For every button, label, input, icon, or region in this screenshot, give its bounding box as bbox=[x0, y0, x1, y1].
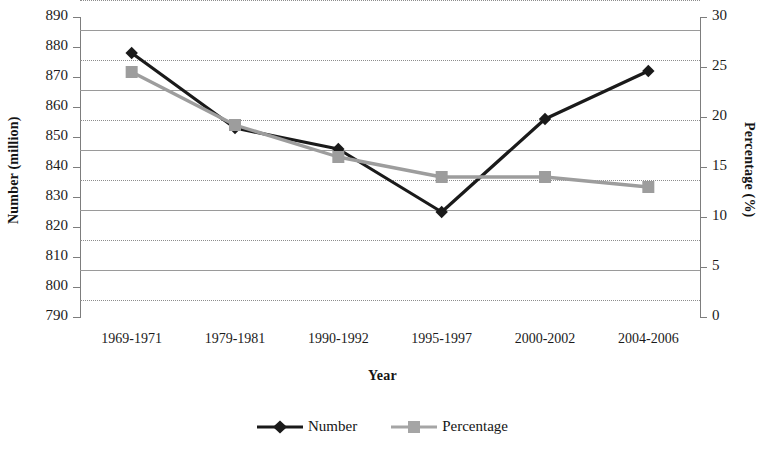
y-axis-right-tick bbox=[700, 17, 707, 18]
y-axis-right-ticklabel: 30 bbox=[712, 8, 742, 23]
y-axis-left-tick bbox=[73, 17, 80, 18]
y-axis-left-tick bbox=[73, 77, 80, 78]
chart-legend: Number Percentage bbox=[0, 418, 765, 435]
y-axis-left-tick bbox=[73, 167, 80, 168]
y-axis-left-ticklabel: 800 bbox=[8, 278, 68, 293]
y-axis-right-ticklabel: 0 bbox=[712, 308, 742, 323]
x-axis-ticklabel: 2004-2006 bbox=[593, 331, 703, 347]
y-axis-right-ticklabel: 5 bbox=[712, 258, 742, 273]
y-axis-left-ticklabel: 820 bbox=[8, 218, 68, 233]
y-axis-left-ticklabel: 810 bbox=[8, 248, 68, 263]
gridline bbox=[80, 210, 700, 211]
y-axis-left-ticklabel: 860 bbox=[8, 98, 68, 113]
y-axis-right-ticklabel: 15 bbox=[712, 158, 742, 173]
data-point-square bbox=[539, 171, 551, 183]
y-axis-left-ticklabel: 840 bbox=[8, 158, 68, 173]
y-axis-left-ticklabel: 870 bbox=[8, 68, 68, 83]
gridline bbox=[80, 0, 700, 1]
x-axis-ticklabel: 1969-1971 bbox=[77, 331, 187, 347]
legend-marker-square-icon bbox=[391, 420, 437, 434]
y-axis-right-ticklabel: 20 bbox=[712, 108, 742, 123]
data-point-square bbox=[332, 151, 344, 163]
y-axis-left-ticklabel: 790 bbox=[8, 308, 68, 323]
y-axis-left-tick bbox=[73, 317, 80, 318]
y-axis-left-ticklabel: 890 bbox=[8, 8, 68, 23]
y-axis-right-ticklabel: 10 bbox=[712, 208, 742, 223]
series-line bbox=[132, 53, 649, 212]
legend-item-percentage: Percentage bbox=[391, 418, 508, 435]
y-axis-left-tick bbox=[73, 137, 80, 138]
y-axis-right-tick bbox=[700, 67, 707, 68]
legend-marker-diamond-icon bbox=[257, 420, 303, 434]
y-axis-right-ticklabel: 25 bbox=[712, 58, 742, 73]
y-axis-left-tick bbox=[73, 47, 80, 48]
y-axis-left-tick bbox=[73, 197, 80, 198]
y-axis-left-tick bbox=[73, 257, 80, 258]
gridline bbox=[80, 240, 700, 241]
x-axis-ticklabel: 1990-1992 bbox=[283, 331, 393, 347]
legend-label-number: Number bbox=[308, 418, 357, 435]
series-percentage bbox=[126, 66, 655, 193]
gridline bbox=[80, 180, 700, 181]
gridline bbox=[80, 90, 700, 91]
y-axis-left-tick bbox=[73, 227, 80, 228]
y-axis-left-ticklabel: 830 bbox=[8, 188, 68, 203]
series-number bbox=[125, 47, 654, 218]
gridline bbox=[80, 270, 700, 271]
y-axis-right-tick bbox=[700, 267, 707, 268]
y-axis-left-ticklabel: 880 bbox=[8, 38, 68, 53]
data-point-diamond bbox=[125, 47, 137, 59]
data-point-diamond bbox=[642, 65, 654, 77]
y-axis-left-ticklabel: 850 bbox=[8, 128, 68, 143]
x-axis-ticklabel: 1979-1981 bbox=[180, 331, 290, 347]
data-point-diamond bbox=[332, 143, 344, 155]
data-point-diamond bbox=[435, 206, 447, 218]
y-axis-right-tick bbox=[700, 217, 707, 218]
y-axis-left-line bbox=[80, 17, 81, 318]
gridline bbox=[80, 120, 700, 121]
legend-item-number: Number bbox=[257, 418, 357, 435]
data-point-square bbox=[126, 66, 138, 78]
y-axis-right-tick bbox=[700, 167, 707, 168]
y-axis-left-tick bbox=[73, 287, 80, 288]
gridline bbox=[80, 30, 700, 31]
legend-label-percentage: Percentage bbox=[442, 418, 508, 435]
y-axis-right-tick bbox=[700, 117, 707, 118]
gridline bbox=[80, 300, 700, 301]
chart-container: Number (million) Percentage (%) Year 890… bbox=[0, 0, 765, 449]
y-axis-right-tick bbox=[700, 317, 707, 318]
gridline bbox=[80, 60, 700, 61]
y-axis-left-tick bbox=[73, 107, 80, 108]
x-axis-ticklabel: 1995-1997 bbox=[387, 331, 497, 347]
data-point-diamond bbox=[539, 113, 551, 125]
data-point-square bbox=[642, 181, 654, 193]
x-axis-title: Year bbox=[0, 368, 765, 384]
x-axis-ticklabel: 2000-2002 bbox=[490, 331, 600, 347]
gridline bbox=[80, 150, 700, 151]
data-point-square bbox=[436, 171, 448, 183]
data-point-diamond bbox=[229, 122, 241, 134]
